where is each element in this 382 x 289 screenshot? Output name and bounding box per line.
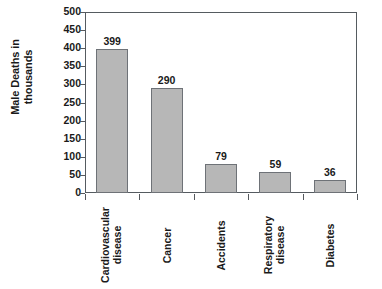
x-axis-category-label: Cancer: [160, 205, 173, 285]
bar: [205, 164, 237, 193]
y-axis-title-line-2: thousands: [22, 50, 35, 105]
y-axis-tick-label: 250: [50, 97, 81, 108]
y-axis-tick-label: 200: [50, 115, 81, 126]
bar: [259, 172, 291, 193]
y-axis-tick-label: 0: [50, 187, 81, 198]
y-axis-tick-label: 400: [50, 42, 81, 53]
bar-value-label: 36: [305, 167, 355, 178]
bar: [96, 49, 128, 193]
y-axis-title: Male Deaths in thousands: [2, 22, 42, 132]
x-axis-tick-mark: [139, 194, 140, 200]
y-axis-tick-label: 300: [50, 78, 81, 89]
x-axis-category-label: Respiratorydisease: [262, 205, 288, 285]
x-axis-tick-mark: [303, 194, 304, 200]
bar-chart: Male Deaths in thousands 050100150200250…: [0, 0, 382, 289]
x-axis-category-label: Diabetes: [323, 205, 336, 285]
x-axis-category-label-line: Cardiovascular: [99, 207, 111, 283]
y-axis-tick-label: 100: [50, 151, 81, 162]
x-axis-tick-mark: [357, 194, 358, 200]
y-axis-tick-mark: [79, 84, 85, 85]
x-axis-category-label-line: disease: [111, 226, 123, 265]
y-axis-tick-mark: [79, 139, 85, 140]
bar: [151, 88, 183, 193]
y-axis-tick-mark: [79, 66, 85, 67]
bar-value-label: 290: [142, 75, 192, 86]
y-axis-tick-label: 350: [50, 60, 81, 71]
y-axis-tick-mark: [79, 157, 85, 158]
bar-value-label: 399: [87, 36, 137, 47]
x-axis-category-label-line: Respiratory: [262, 216, 274, 274]
x-axis-tick-mark: [85, 194, 86, 200]
y-axis-tick-label: 450: [50, 24, 81, 35]
x-axis-category-label: Cardiovasculardisease: [99, 205, 125, 285]
y-axis-tick-mark: [79, 121, 85, 122]
y-axis-tick-mark: [79, 103, 85, 104]
y-axis-tick-label: 50: [50, 169, 81, 180]
y-axis-tick-label: 150: [50, 133, 81, 144]
y-axis-tick-mark: [79, 175, 85, 176]
x-axis-category-label: Accidents: [215, 205, 228, 285]
bar-value-label: 79: [196, 151, 246, 162]
y-axis-tick-label: 500: [50, 6, 81, 17]
bar: [314, 180, 346, 193]
y-axis-tick-mark: [79, 12, 85, 13]
x-axis-tick-mark: [194, 194, 195, 200]
y-axis-title-line-1: Male Deaths in: [9, 39, 22, 115]
x-axis-tick-mark: [248, 194, 249, 200]
x-axis-category-label-line: Cancer: [160, 227, 172, 263]
y-axis-tick-mark: [79, 48, 85, 49]
y-axis-tick-labels: 050100150200250300350400450500: [50, 6, 81, 200]
x-axis-category-label-line: Diabetes: [323, 223, 335, 267]
bar-value-label: 59: [250, 159, 300, 170]
y-axis-tick-mark: [79, 30, 85, 31]
x-axis-category-label-line: Accidents: [215, 220, 227, 270]
x-axis-category-label-line: disease: [274, 226, 286, 265]
